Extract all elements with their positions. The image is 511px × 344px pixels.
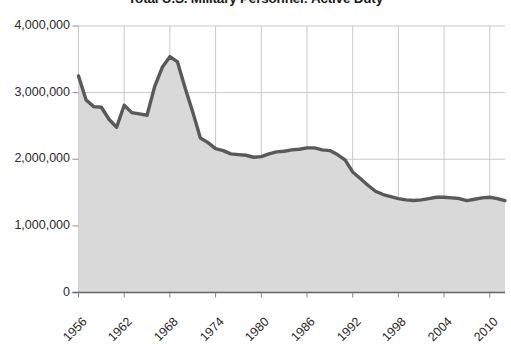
x-axis-tick-label: 1986 (289, 315, 318, 344)
x-axis-tick-label: 1998 (380, 315, 409, 344)
x-axis-tick-label: 1968 (152, 315, 181, 344)
x-axis-tick-label: 1992 (335, 315, 364, 344)
x-axis-tick-label: 1974 (198, 315, 227, 344)
chart-container: Total U.S. Military Personnel: Active Du… (0, 0, 511, 344)
x-axis-tick-label: 2010 (472, 315, 501, 344)
x-axis-tick-label: 2004 (426, 315, 455, 344)
x-axis-tick-label: 1956 (61, 315, 90, 344)
x-axis-labels: 1956196219681974198019861992199820042010 (0, 0, 511, 344)
x-axis-tick-label: 1962 (106, 315, 135, 344)
x-axis-tick-label: 1980 (243, 315, 272, 344)
